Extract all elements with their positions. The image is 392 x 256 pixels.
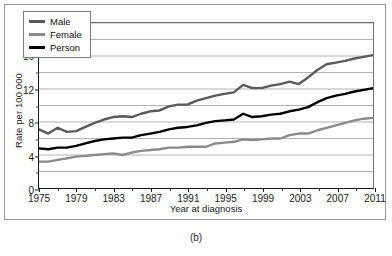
x-tick-mark xyxy=(76,188,77,192)
figure-caption: (b) xyxy=(0,232,392,243)
legend-label: Male xyxy=(50,17,71,27)
legend-item-female: Female xyxy=(29,28,82,41)
y-tick-mark xyxy=(35,89,39,90)
y-tick-mark-minor xyxy=(36,106,39,107)
x-tick-mark xyxy=(263,188,264,192)
legend-item-male: Male xyxy=(29,15,82,28)
y-tick-mark-minor xyxy=(36,73,39,74)
x-tick-mark-minor xyxy=(132,188,133,191)
x-tick-mark-minor xyxy=(356,188,357,191)
x-tick-mark-minor xyxy=(95,188,96,191)
legend-item-person: Person xyxy=(29,41,82,54)
x-tick-mark-minor xyxy=(207,188,208,191)
y-tick-mark xyxy=(35,156,39,157)
legend-label: Person xyxy=(50,43,80,53)
y-tick-mark-minor xyxy=(36,139,39,140)
legend-label: Female xyxy=(50,30,82,40)
x-tick-mark xyxy=(188,188,189,192)
x-tick-mark-minor xyxy=(244,188,245,191)
x-tick-mark-minor xyxy=(282,188,283,191)
legend-swatch-icon xyxy=(29,33,45,36)
y-tick-mark xyxy=(35,123,39,124)
x-tick-mark-minor xyxy=(319,188,320,191)
y-axis-label: Rate per 100 000 xyxy=(13,56,24,166)
x-tick-mark xyxy=(151,188,152,192)
x-axis-label: Year at diagnosis xyxy=(38,203,374,214)
chart-legend: MaleFemalePerson xyxy=(23,11,91,58)
figure-panel-b: Rate per 100 000 04812162019751979198319… xyxy=(0,0,392,256)
x-tick-mark xyxy=(226,188,227,192)
legend-swatch-icon xyxy=(29,46,45,49)
x-tick-mark xyxy=(300,188,301,192)
x-tick-mark-minor xyxy=(58,188,59,191)
x-tick-mark xyxy=(338,188,339,192)
y-tick-label: 4 xyxy=(28,151,34,162)
x-tick-mark xyxy=(39,188,40,192)
x-tick-mark-minor xyxy=(170,188,171,191)
x-tick-mark xyxy=(114,188,115,192)
y-tick-mark-minor xyxy=(36,173,39,174)
x-tick-mark xyxy=(375,188,376,192)
y-tick-label: 12 xyxy=(23,84,34,95)
y-tick-label: 8 xyxy=(28,118,34,129)
legend-swatch-icon xyxy=(29,20,45,23)
